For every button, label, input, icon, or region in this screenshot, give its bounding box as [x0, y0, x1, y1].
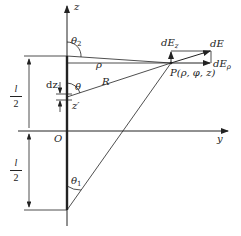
z-axis-label: z	[74, 2, 79, 12]
top-half-length-label: l 2	[10, 84, 22, 109]
dErho-label: dEρ	[213, 59, 231, 71]
rho-label: ρ	[96, 60, 102, 70]
R-label: R	[102, 77, 110, 87]
dEz-label: dEz	[161, 38, 178, 50]
diagram-geometry	[0, 0, 241, 236]
dz-label: dz′	[46, 80, 59, 92]
bottom-half-length-label: l 2	[10, 158, 22, 183]
theta1-label: θ1	[71, 176, 82, 188]
line-charge-field-diagram: z y O θ2 θ θ1 ρ R dz′ z′ P(ρ, φ, z) dE d…	[0, 0, 241, 236]
line-bottom-to-P	[67, 63, 171, 210]
point-P-label: P(ρ, φ, z)	[170, 68, 215, 78]
zprime-label: z′	[72, 101, 80, 111]
origin-label: O	[54, 134, 62, 144]
y-axis-label: y	[217, 134, 223, 144]
R-line	[67, 63, 171, 97]
point-P-dot	[170, 62, 173, 65]
theta-label: θ	[75, 82, 81, 92]
line-top-to-P	[67, 56, 171, 63]
theta2-label: θ2	[71, 36, 82, 48]
dE-label: dE	[210, 39, 224, 49]
dE-vector	[171, 51, 210, 63]
